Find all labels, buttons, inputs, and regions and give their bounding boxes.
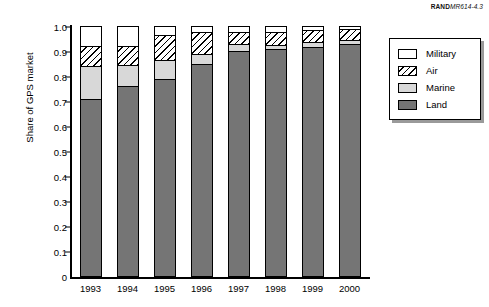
legend-item-marine[interactable]: Marine [398,79,474,96]
x-tick-label: 1993 [80,283,101,294]
bar-segment-air-2000 [339,29,361,41]
x-tick-label: 1998 [265,283,286,294]
diagonal-hatch-square-icon [398,66,417,76]
bar-segment-land-1996 [191,64,213,278]
legend-label: Military [426,48,456,59]
bar-segment-air-1997 [228,32,250,44]
legend-label: Marine [426,82,455,93]
x-tick-label: 2000 [339,283,360,294]
bar-segment-land-1995 [154,79,176,278]
y-tick-mark [65,227,72,228]
y-tick-mark [65,127,72,128]
bar-segment-air-1995 [154,35,176,61]
bar-stack [191,27,213,277]
bar-segment-marine-1995 [154,60,176,80]
bar-segment-air-1996 [191,32,213,54]
bar-segment-air-1999 [302,30,324,44]
legend-label: Air [426,65,438,76]
bar-segment-marine-1993 [80,66,102,100]
bar-segment-land-1998 [265,49,287,278]
bar-stack [302,27,324,277]
legend-item-land[interactable]: Land [398,96,474,113]
bar-group-2000: 2000 [339,27,361,277]
legend-item-air[interactable]: Air [398,62,474,79]
y-tick-mark [65,177,72,178]
source-credit-document-id: MR614-4.3 [450,3,483,10]
light-gray-square-icon [398,83,417,93]
bar-segment-land-1997 [228,51,250,277]
y-axis-title: Share of GPS market [24,13,35,183]
bar-stack [154,27,176,277]
bar-group-1995: 1995 [154,27,176,277]
bar-segment-military-1998 [265,26,287,33]
bar-segment-land-1993 [80,99,102,278]
bar-segment-air-1994 [117,46,139,66]
bar-stack [80,27,102,277]
x-axis-line [70,277,370,279]
y-tick-label: 0 [62,272,67,283]
y-tick-mark [65,102,72,103]
source-credit-rand: RAND [431,3,450,10]
source-credit: RANDMR614-4.3 [431,3,483,10]
bar-segment-military-1997 [228,26,250,33]
bar-stack [265,27,287,277]
x-tick-label: 1999 [302,283,323,294]
bar-segment-air-1998 [265,32,287,46]
bar-segment-marine-1996 [191,54,213,65]
bar-group-1993: 1993 [80,27,102,277]
legend-item-military[interactable]: Military [398,45,474,62]
y-tick-mark [65,202,72,203]
bar-stack [228,27,250,277]
bar-group-1994: 1994 [117,27,139,277]
white-square-icon [398,49,417,59]
dark-gray-square-icon [398,100,417,110]
bar-segment-land-1999 [302,47,324,277]
x-tick-label: 1997 [228,283,249,294]
bar-segment-military-2000 [339,26,361,30]
x-tick-label: 1995 [154,283,175,294]
bar-group-1999: 1999 [302,27,324,277]
y-tick-mark [65,252,72,253]
chart-legend: MilitaryAirMarineLand [389,38,481,120]
plot-area: 00.10.20.30.40.50.60.70.80.91.0 19931994… [72,27,368,277]
bar-segment-land-2000 [339,44,361,278]
bar-segment-marine-1997 [228,44,250,53]
bar-segment-military-1994 [117,26,139,47]
bar-segment-military-1996 [191,26,213,33]
y-tick-mark [65,77,72,78]
bar-group-1997: 1997 [228,27,250,277]
bar-group-1998: 1998 [265,27,287,277]
bar-stack [117,27,139,277]
y-tick-mark [65,152,72,153]
bar-segment-military-1999 [302,26,324,31]
bar-segment-land-1994 [117,86,139,277]
legend-label: Land [426,99,447,110]
y-tick-mark [65,27,72,28]
bar-segment-air-1993 [80,46,102,67]
bar-segment-marine-1994 [117,65,139,87]
x-tick-label: 1994 [117,283,138,294]
bar-group-1996: 1996 [191,27,213,277]
bar-segment-military-1993 [80,26,102,47]
bar-segment-military-1995 [154,26,176,36]
y-tick-mark [65,52,72,53]
bar-stack [339,27,361,277]
x-tick-label: 1996 [191,283,212,294]
